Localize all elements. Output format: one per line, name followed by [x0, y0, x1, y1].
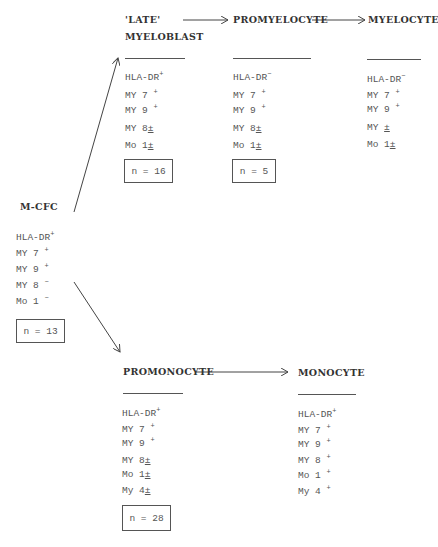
marker-my8: MY 8±: [122, 455, 151, 466]
marker-hla-dr: HLA-DR−: [233, 72, 271, 83]
marker-my9: MY 9 +: [298, 439, 331, 450]
marker-my9: MY 9 +: [16, 264, 49, 275]
divider: [298, 394, 356, 395]
divider: [123, 393, 183, 394]
marker-my8: MY 8±: [233, 123, 262, 134]
marker-my7: MY 7 +: [16, 248, 49, 259]
cell-lineage-diagram: M-CFC HLA-DR+ MY 7 + MY 9 + MY 8 − Mo 1 …: [0, 0, 438, 547]
marker-hla-dr: HLA-DR+: [16, 232, 54, 243]
arrow-mcfc-to-promonocyte: [74, 282, 120, 352]
arrow-mcfc-to-myeloblast: [74, 58, 118, 212]
n-count-box: n = 13: [16, 319, 65, 343]
marker-my7: MY 7 +: [125, 90, 158, 101]
marker-my8: MY 8 −: [16, 280, 49, 291]
marker-hla-dr: HLA-DR+: [122, 408, 160, 419]
marker-mo1: Mo 1±: [125, 140, 154, 151]
n-count-box: n = 28: [122, 505, 171, 531]
marker-my9: MY 9 +: [125, 105, 158, 116]
marker-my7: MY 7 +: [298, 425, 331, 436]
myelocyte-title: MYELOCYTE: [368, 14, 438, 25]
marker-my9: MY 9 +: [233, 105, 266, 116]
marker-my4: My 4 +: [298, 486, 331, 497]
monocyte-title: MONOCYTE: [298, 367, 365, 378]
marker-my: MY ±: [367, 122, 390, 133]
divider: [367, 59, 421, 60]
myeloblast-title-line2: MYELOBLAST: [125, 31, 204, 42]
marker-my8: MY 8 +: [298, 455, 331, 466]
marker-my8: MY 8±: [125, 123, 154, 134]
myeloblast-title-line1: 'LATE': [125, 14, 160, 25]
marker-hla-dr: HLA-DR+: [125, 72, 163, 83]
marker-my7: MY 7 +: [122, 424, 155, 435]
marker-hla-dr: HLA-DR−: [367, 74, 405, 85]
promyelocyte-title: PROMYELOCYTE: [233, 14, 328, 25]
marker-my9: MY 9 +: [367, 104, 400, 115]
marker-mo1: Mo 1 +: [298, 470, 331, 481]
marker-hla-dr: HLA-DR+: [298, 409, 336, 420]
marker-mo1: Mo 1±: [122, 469, 151, 480]
divider: [125, 58, 185, 59]
n-count-box: n = 5: [232, 159, 276, 183]
marker-my4: My 4±: [122, 485, 151, 496]
marker-mo1: Mo 1±: [367, 139, 396, 150]
marker-my7: MY 7 +: [367, 90, 400, 101]
mcfc-title: M-CFC: [20, 201, 58, 212]
marker-mo1: Mo 1±: [233, 140, 262, 151]
marker-my7: MY 7 +: [233, 90, 266, 101]
marker-mo1: Mo 1 −: [16, 296, 49, 307]
n-count-box: n = 16: [124, 159, 173, 183]
marker-my9: MY 9 +: [122, 438, 155, 449]
promonocyte-title: PROMONOCYTE: [123, 366, 214, 377]
divider: [233, 58, 311, 59]
